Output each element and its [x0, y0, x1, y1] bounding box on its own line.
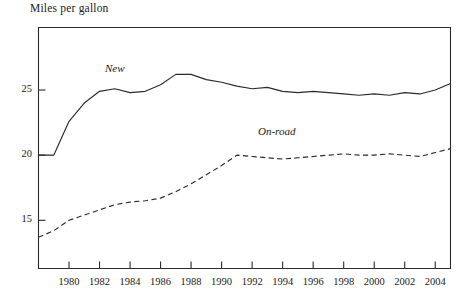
x-tick-label: 2004: [415, 276, 455, 287]
plot-area: [0, 0, 471, 302]
series-line-new: [39, 74, 451, 155]
axes-group: [39, 28, 451, 269]
plot-frame: [39, 28, 451, 269]
series-label-new: New: [105, 62, 125, 74]
tick-marks-group: [39, 90, 436, 268]
series-line-on-road: [39, 149, 451, 238]
series-group: [39, 74, 451, 237]
y-tick-label: 15: [0, 213, 32, 224]
y-tick-label: 20: [0, 148, 32, 159]
chart-page: Miles per gallon 152025 1980198219841986…: [0, 0, 471, 302]
series-label-on-road: On-road: [258, 125, 295, 137]
y-tick-label: 25: [0, 83, 32, 94]
